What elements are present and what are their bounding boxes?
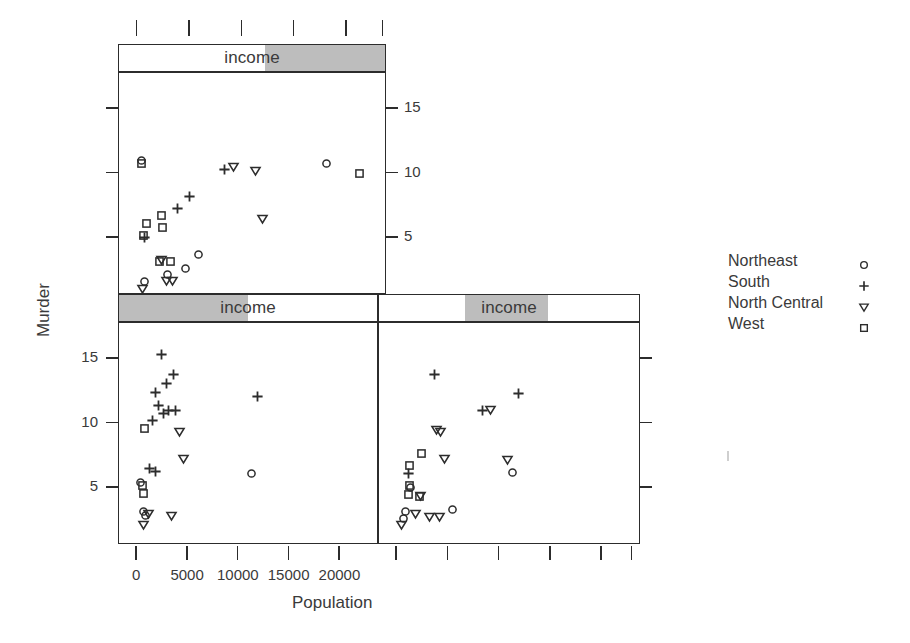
y-axis-title: Murder bbox=[34, 283, 54, 337]
data-point bbox=[446, 502, 459, 515]
legend-item-label: Northeast bbox=[728, 250, 797, 271]
data-point bbox=[506, 465, 519, 478]
y-axis-tick bbox=[640, 422, 652, 424]
data-point bbox=[251, 389, 264, 402]
strip-header-bottom-left: income bbox=[118, 294, 378, 322]
legend-item-label: North Central bbox=[728, 292, 823, 313]
x-axis-tick bbox=[382, 20, 384, 36]
legend-key-circle-icon bbox=[858, 250, 876, 271]
data-point bbox=[414, 488, 427, 501]
y-tick-label-bottom: 15 bbox=[64, 348, 98, 365]
y-axis-tick bbox=[640, 486, 652, 488]
panel-bottom-right-points bbox=[379, 323, 639, 543]
y-tick-label-top: 15 bbox=[404, 98, 421, 115]
strip-header-bottom-right: income bbox=[378, 294, 640, 322]
data-point bbox=[138, 421, 151, 434]
panel-top-left[interactable] bbox=[118, 72, 386, 294]
x-axis-tick bbox=[136, 20, 138, 36]
x-axis-tick bbox=[237, 546, 239, 560]
strip-label-bottom-right: income bbox=[379, 295, 639, 321]
y-tick-label-top: 5 bbox=[404, 227, 412, 244]
x-axis-tick bbox=[631, 546, 633, 560]
x-axis-tick bbox=[188, 20, 190, 36]
x-axis-tick bbox=[345, 20, 347, 36]
trellis-plot-figure: income 51015 income 51015 income 0500010… bbox=[0, 0, 910, 643]
x-axis-tick bbox=[338, 546, 340, 560]
x-axis-tick bbox=[241, 20, 243, 36]
x-axis-tick bbox=[186, 546, 188, 560]
data-point bbox=[245, 466, 258, 479]
data-point bbox=[166, 273, 179, 286]
y-axis-tick bbox=[106, 236, 118, 238]
data-point bbox=[173, 424, 186, 437]
strip-label-top: income bbox=[119, 45, 385, 71]
data-point bbox=[433, 509, 446, 522]
data-point bbox=[179, 261, 192, 274]
data-point bbox=[183, 189, 196, 202]
x-axis-tick bbox=[135, 546, 137, 560]
data-point bbox=[137, 486, 150, 499]
y-axis-tick bbox=[386, 172, 398, 174]
y-axis-tick bbox=[106, 422, 118, 424]
legend-item-label: South bbox=[728, 271, 770, 292]
data-point bbox=[501, 452, 514, 465]
legend-key-square-icon bbox=[858, 313, 876, 334]
y-tick-label-bottom: 10 bbox=[64, 413, 98, 430]
y-tick-label-top: 10 bbox=[404, 163, 421, 180]
data-point bbox=[171, 201, 184, 214]
data-point bbox=[484, 402, 497, 415]
data-point bbox=[415, 446, 428, 459]
y-axis-tick bbox=[106, 357, 118, 359]
x-axis-tick bbox=[600, 546, 602, 560]
data-point bbox=[512, 386, 525, 399]
data-point bbox=[320, 156, 333, 169]
y-axis-tick bbox=[386, 107, 398, 109]
data-point bbox=[353, 166, 366, 179]
x-axis-tick bbox=[288, 546, 290, 560]
data-point bbox=[395, 517, 408, 530]
data-point bbox=[135, 153, 148, 166]
data-point bbox=[156, 220, 169, 233]
x-axis-tick bbox=[447, 546, 449, 560]
x-axis-title: Population bbox=[292, 593, 372, 613]
x-axis-tick bbox=[498, 546, 500, 560]
panel-bottom-right[interactable] bbox=[378, 322, 640, 544]
data-point bbox=[164, 254, 177, 267]
panel-bottom-left-points bbox=[119, 323, 377, 543]
data-point bbox=[155, 347, 168, 360]
data-point bbox=[428, 367, 441, 380]
y-tick-label-bottom: 5 bbox=[64, 477, 98, 494]
x-axis-tick bbox=[549, 546, 551, 560]
strip-label-bottom-left: income bbox=[119, 295, 377, 321]
x-axis-tick bbox=[293, 20, 295, 36]
legend-item-label: West bbox=[728, 313, 764, 334]
data-point bbox=[227, 159, 240, 172]
data-point bbox=[438, 451, 451, 464]
data-point bbox=[149, 464, 162, 477]
x-axis-tick bbox=[395, 546, 397, 560]
scan-artifact-speck bbox=[727, 451, 729, 461]
legend-key-triangle-down-icon bbox=[858, 292, 876, 313]
y-axis-tick bbox=[386, 236, 398, 238]
panel-top-left-points bbox=[119, 73, 385, 293]
data-point bbox=[136, 281, 149, 294]
y-axis-tick bbox=[106, 172, 118, 174]
legend-key-plus-icon bbox=[858, 271, 876, 292]
data-point bbox=[165, 508, 178, 521]
y-axis-tick bbox=[106, 107, 118, 109]
strip-header-top: income bbox=[118, 44, 386, 72]
y-axis-tick bbox=[106, 486, 118, 488]
y-axis-tick bbox=[640, 357, 652, 359]
data-point bbox=[169, 403, 182, 416]
data-point bbox=[137, 517, 150, 530]
data-point bbox=[177, 451, 190, 464]
data-point bbox=[138, 230, 151, 243]
data-point bbox=[434, 424, 447, 437]
data-point bbox=[249, 163, 262, 176]
panel-bottom-left[interactable] bbox=[118, 322, 378, 544]
data-point bbox=[256, 211, 269, 224]
data-point bbox=[149, 385, 162, 398]
data-point bbox=[409, 506, 422, 519]
data-point bbox=[192, 247, 205, 260]
x-tick-label: 20000 bbox=[299, 566, 379, 583]
